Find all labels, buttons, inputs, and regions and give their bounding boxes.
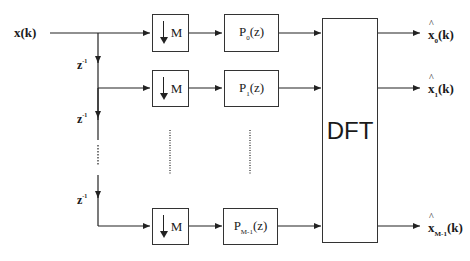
- output-label-0: x0(k): [428, 28, 454, 45]
- filter-block-p0: P0(z): [224, 14, 279, 52]
- decimator-block-1: M: [152, 70, 189, 107]
- delay-label-3: z-1: [77, 193, 87, 206]
- output-label-m1: xM-1(k): [428, 221, 463, 238]
- decimator-block-2: M: [152, 208, 189, 245]
- down-arrow-icon: [159, 77, 169, 101]
- filter-block-pm1: PM-1(z): [223, 208, 278, 245]
- dft-label: DFT: [327, 117, 374, 145]
- delay-label-2: z-1: [77, 112, 87, 125]
- input-label: x(k): [14, 26, 36, 39]
- down-arrow-icon: [159, 21, 169, 45]
- dft-block: DFT: [322, 18, 378, 243]
- decimator-label: M: [171, 81, 183, 97]
- decimator-label: M: [171, 25, 183, 41]
- down-arrow-icon: [159, 215, 169, 239]
- filter-block-p1: P1(z): [224, 70, 279, 107]
- decimator-label: M: [171, 219, 183, 235]
- decimator-block-0: M: [152, 14, 189, 52]
- output-label-1: x1(k): [428, 82, 454, 99]
- delay-label-1: z-1: [77, 58, 87, 71]
